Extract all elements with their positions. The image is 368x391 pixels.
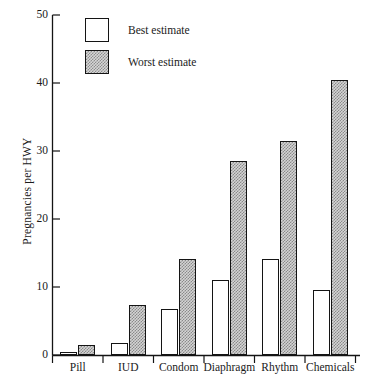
- legend-label-worst: Worst estimate: [128, 56, 196, 68]
- bar-diaphragm-best: [212, 280, 229, 356]
- x-axis-label-chemicals: Chemicals: [306, 362, 355, 374]
- bar-rhythm-best: [262, 259, 279, 356]
- legend-swatch-worst-icon: [85, 50, 109, 74]
- bar-diaphragm-worst: [230, 161, 247, 356]
- y-tick-label-group: 50 40 30 20 10 0: [20, 0, 48, 391]
- y-tick-label: 50: [26, 9, 48, 21]
- legend-item-best: Best estimate: [85, 18, 190, 42]
- y-tick-label: 40: [26, 77, 48, 89]
- x-axis-label-diaphragm: Diaphragm: [203, 362, 255, 374]
- x-axis-label-iud: IUD: [118, 362, 138, 374]
- bar-iud-worst: [129, 305, 146, 355]
- bar-chemicals-best: [313, 290, 330, 355]
- bar-condom-best: [161, 309, 178, 355]
- bar-rhythm-worst: [280, 141, 297, 356]
- bar-chart: Pregnancies per HWY 50 40 30 20 10 0 Bes…: [0, 0, 368, 391]
- y-tick-marks: [53, 15, 61, 355]
- bar-condom-worst: [179, 259, 196, 356]
- bar-iud-best: [111, 343, 128, 356]
- y-tick-label: 20: [26, 213, 48, 225]
- y-tick-label: 10: [26, 281, 48, 293]
- legend-swatch-best-icon: [85, 18, 109, 42]
- x-axis-label-condom: Condom: [159, 362, 199, 374]
- y-tick-label: 30: [26, 145, 48, 157]
- y-tick-label: 0: [26, 349, 48, 361]
- x-axis-label-pill: Pill: [70, 362, 86, 374]
- x-axis-label-rhythm: Rhythm: [261, 362, 298, 374]
- bar-pill-worst: [78, 345, 95, 356]
- legend-item-worst: Worst estimate: [85, 50, 196, 74]
- bar-pill-best: [60, 352, 77, 355]
- bar-chemicals-worst: [331, 80, 348, 355]
- legend-label-best: Best estimate: [128, 24, 190, 36]
